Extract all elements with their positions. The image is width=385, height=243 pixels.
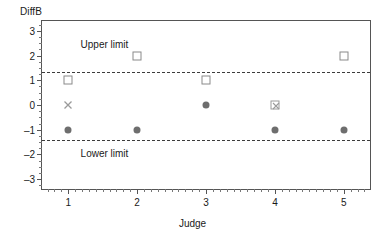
y-axis-tick — [37, 154, 42, 155]
y-axis-tick-label: 0 — [29, 100, 35, 111]
x-axis-minor-tick — [282, 189, 283, 192]
x-axis-minor-tick — [178, 189, 179, 192]
x-axis-minor-tick — [213, 189, 214, 192]
y-axis-tick — [37, 31, 42, 32]
y-axis-minor-tick — [39, 167, 42, 168]
data-point-square-cross — [270, 101, 279, 110]
x-axis-minor-tick — [103, 189, 104, 192]
y-axis-tick — [37, 130, 42, 131]
y-axis-minor-tick — [39, 173, 42, 174]
plot-area: 3210–1–2–312345Upper limitLower limit — [41, 20, 371, 190]
x-axis-tick-label: 3 — [203, 197, 209, 208]
limit-label: Lower limit — [81, 148, 129, 159]
x-axis-minor-tick — [261, 189, 262, 192]
y-axis-minor-tick — [39, 124, 42, 125]
x-axis-minor-tick — [130, 189, 131, 192]
x-axis-minor-tick — [234, 189, 235, 192]
x-axis-minor-tick — [151, 189, 152, 192]
x-axis-minor-tick — [172, 189, 173, 192]
y-axis-tick-label: 2 — [29, 50, 35, 61]
x-axis-minor-tick — [48, 189, 49, 192]
y-axis-tick — [37, 80, 42, 81]
y-axis-minor-tick — [39, 86, 42, 87]
y-axis-minor-tick — [39, 62, 42, 63]
x-axis-minor-tick — [254, 189, 255, 192]
x-axis-minor-tick — [220, 189, 221, 192]
limit-label: Upper limit — [81, 39, 129, 50]
x-axis-minor-tick — [144, 189, 145, 192]
x-axis-title: Judge — [0, 218, 385, 229]
y-axis-tick-label: –2 — [24, 149, 35, 160]
y-axis-tick — [37, 56, 42, 57]
x-axis-tick — [137, 189, 138, 194]
y-axis-minor-tick — [39, 43, 42, 44]
diffb-judge-scatter-chart: DiffB 3210–1–2–312345Upper limitLower li… — [0, 0, 385, 243]
x-axis-tick — [68, 189, 69, 194]
x-axis-tick — [275, 189, 276, 194]
x-axis-tick — [206, 189, 207, 194]
y-axis-title: DiffB — [20, 6, 42, 17]
x-axis-minor-tick — [364, 189, 365, 192]
x-axis-tick-label: 1 — [65, 197, 71, 208]
x-axis-minor-tick — [351, 189, 352, 192]
y-axis-tick-label: 3 — [29, 25, 35, 36]
x-axis-tick-label: 5 — [341, 197, 347, 208]
y-axis-minor-tick — [39, 37, 42, 38]
x-axis-minor-tick — [116, 189, 117, 192]
x-axis-tick — [344, 189, 345, 194]
x-axis-minor-tick — [185, 189, 186, 192]
y-axis-minor-tick — [39, 185, 42, 186]
y-axis-minor-tick — [39, 49, 42, 50]
x-axis-minor-tick — [110, 189, 111, 192]
y-axis-minor-tick — [39, 74, 42, 75]
data-point-cross — [64, 101, 73, 110]
y-axis-minor-tick — [39, 93, 42, 94]
data-point-circle-filled — [203, 102, 210, 109]
x-axis-minor-tick — [199, 189, 200, 192]
y-axis-minor-tick — [39, 111, 42, 112]
x-axis-minor-tick — [240, 189, 241, 192]
data-point-square-open — [133, 51, 142, 60]
y-axis-minor-tick — [39, 25, 42, 26]
x-axis-minor-tick — [296, 189, 297, 192]
y-axis-minor-tick — [39, 68, 42, 69]
y-axis-minor-tick — [39, 117, 42, 118]
x-axis-minor-tick — [227, 189, 228, 192]
x-axis-minor-tick — [96, 189, 97, 192]
data-point-circle-filled — [271, 126, 278, 133]
x-axis-minor-tick — [61, 189, 62, 192]
y-axis-tick-label: –3 — [24, 174, 35, 185]
y-axis-minor-tick — [39, 161, 42, 162]
x-axis-minor-tick — [165, 189, 166, 192]
data-point-square-open — [339, 51, 348, 60]
x-axis-minor-tick — [337, 189, 338, 192]
x-axis-tick-label: 2 — [134, 197, 140, 208]
x-axis-minor-tick — [302, 189, 303, 192]
data-point-circle-filled — [340, 126, 347, 133]
y-axis-minor-tick — [39, 99, 42, 100]
x-axis-minor-tick — [89, 189, 90, 192]
y-axis-tick — [37, 179, 42, 180]
data-point-square-open — [64, 76, 73, 85]
limit-line — [42, 140, 370, 141]
x-axis-tick-label: 4 — [272, 197, 278, 208]
x-axis-minor-tick — [358, 189, 359, 192]
x-axis-minor-tick — [316, 189, 317, 192]
x-axis-minor-tick — [54, 189, 55, 192]
y-axis-tick-label: –1 — [24, 124, 35, 135]
data-point-circle-filled — [134, 126, 141, 133]
data-point-square-open — [202, 76, 211, 85]
x-axis-minor-tick — [82, 189, 83, 192]
x-axis-minor-tick — [192, 189, 193, 192]
x-axis-minor-tick — [268, 189, 269, 192]
x-axis-minor-tick — [247, 189, 248, 192]
x-axis-minor-tick — [323, 189, 324, 192]
y-axis-minor-tick — [39, 142, 42, 143]
y-axis-minor-tick — [39, 148, 42, 149]
x-axis-minor-tick — [123, 189, 124, 192]
data-point-circle-filled — [65, 126, 72, 133]
x-axis-minor-tick — [309, 189, 310, 192]
limit-line — [42, 72, 370, 73]
y-axis-tick-label: 1 — [29, 75, 35, 86]
x-axis-minor-tick — [330, 189, 331, 192]
